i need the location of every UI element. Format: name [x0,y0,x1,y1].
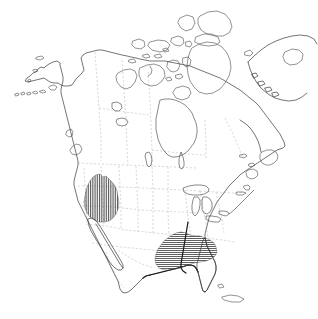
map-background [0,0,318,319]
distribution-map-figure: Outline map of North America with two ha… [0,0,318,319]
map-canvas [0,0,318,319]
